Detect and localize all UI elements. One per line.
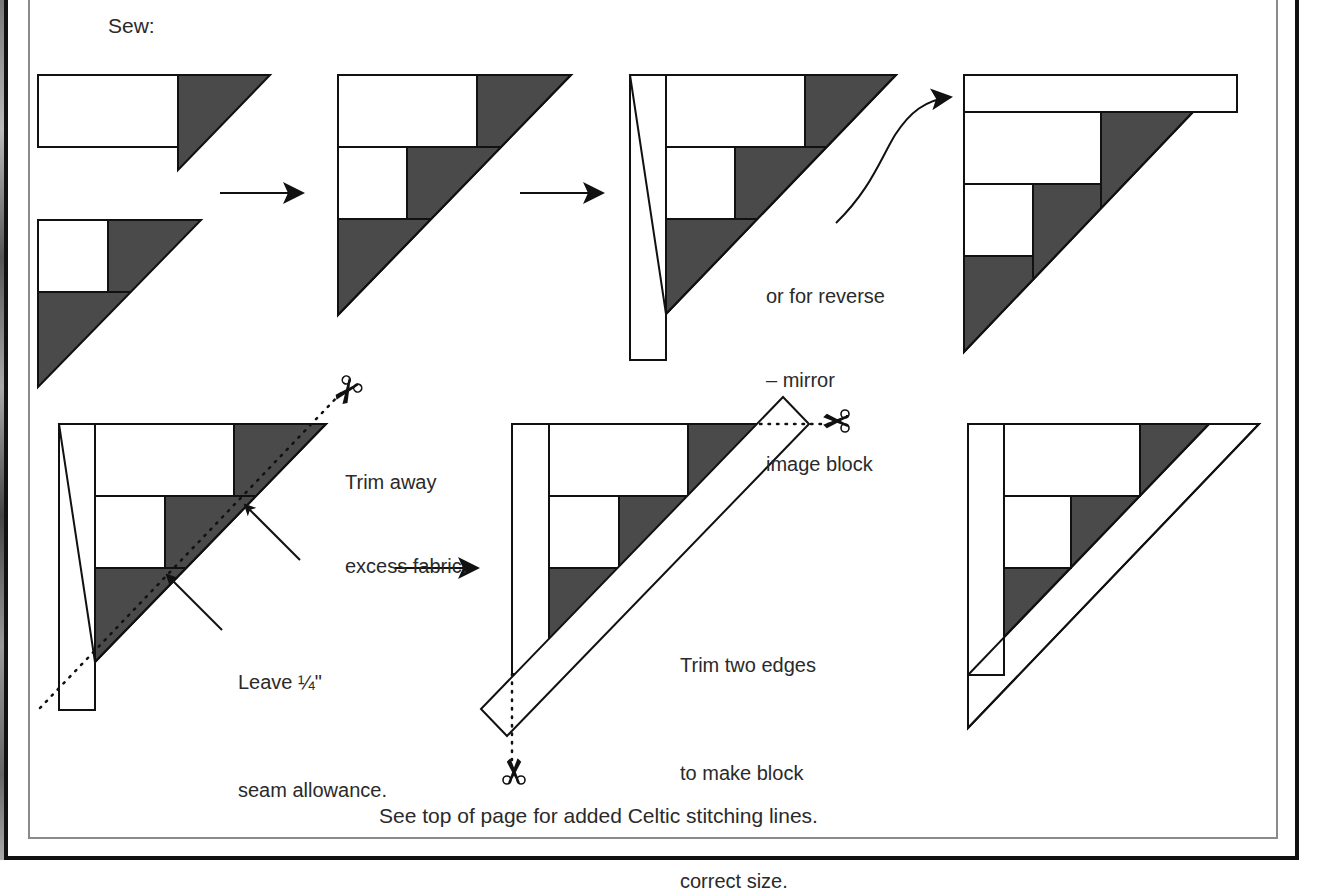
annotation-line: to make block: [680, 755, 816, 791]
step-1-top-piece: [38, 75, 270, 170]
step-2-block: [338, 75, 571, 315]
annotation-line: Trim away: [345, 468, 467, 496]
pointer-arrow: [245, 505, 300, 560]
annotation-line: image block: [766, 450, 885, 478]
annotation-line: excess fabric.: [345, 552, 467, 580]
annotation-line: or for reverse: [766, 282, 885, 310]
step-7-finished-block: [968, 424, 1259, 728]
scissors-icon: [332, 374, 364, 406]
seam-allowance-annotation: Leave ¼" seam allowance.: [238, 592, 387, 844]
reverse-annotation: or for reverse – mirror image block: [766, 226, 885, 506]
trim-edges-annotation: Trim two edges to make block correct siz…: [680, 575, 816, 892]
step-1-bottom-piece: [38, 220, 201, 387]
step-4-mirror-block: [964, 75, 1237, 352]
caption: See top of page for added Celtic stitchi…: [379, 802, 818, 830]
annotation-line: correct size.: [680, 863, 816, 892]
sew-label: Sew:: [108, 12, 155, 40]
pointer-arrow: [167, 575, 222, 630]
annotation-line: – mirror: [766, 366, 885, 394]
trim-away-annotation: Trim away excess fabric.: [345, 412, 467, 608]
scissors-icon: [503, 760, 525, 784]
annotation-line: Trim two edges: [680, 647, 816, 683]
annotation-line: Leave ¼": [238, 664, 387, 700]
annotation-line: seam allowance.: [238, 772, 387, 808]
